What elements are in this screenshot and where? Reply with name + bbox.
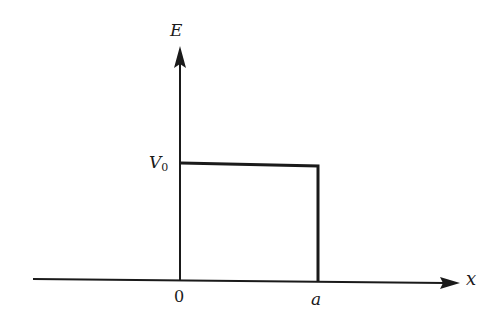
x-axis <box>33 279 445 283</box>
barrier-height-main: V <box>149 152 161 172</box>
x-axis-arrowhead-icon <box>440 277 460 289</box>
y-axis-label: E <box>170 22 182 39</box>
barrier-end-label: a <box>311 291 321 308</box>
potential-barrier <box>181 163 318 282</box>
origin-label: 0 <box>174 289 184 305</box>
barrier-height-subscript: 0 <box>161 161 168 174</box>
barrier-height-label: V0 <box>149 154 168 173</box>
x-axis-label: x <box>466 270 476 288</box>
diagram-canvas <box>0 0 503 319</box>
